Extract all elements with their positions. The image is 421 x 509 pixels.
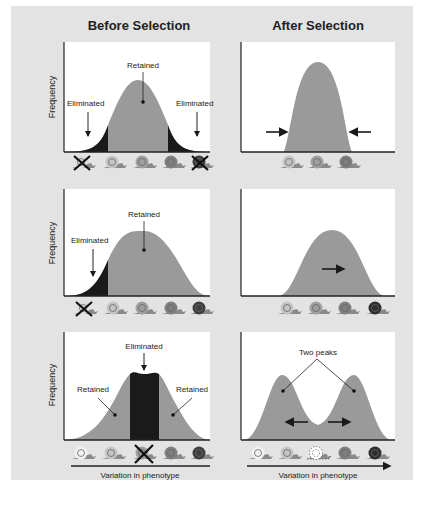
row2-before-snails xyxy=(74,302,214,317)
y-axis-label-row1: Frequency xyxy=(47,75,57,118)
label-eliminated-left: Eliminated xyxy=(67,99,104,108)
label-retained: Retained xyxy=(127,61,159,70)
label-eliminated-left: Eliminated xyxy=(71,236,108,245)
row1-after-snails xyxy=(280,156,361,169)
row-disruptive-after: Two peaks xyxy=(241,332,395,440)
label-eliminated: Eliminated xyxy=(125,342,162,351)
label-two-peaks: Two peaks xyxy=(299,348,337,357)
y-axis-label-row2: Frequency xyxy=(47,221,57,264)
row-stabilizing-after xyxy=(241,42,395,152)
x-axis-label-right: Variation in phenotype xyxy=(278,471,358,480)
row2-after-snails xyxy=(278,302,390,315)
label-retained-right: Retained xyxy=(176,385,208,394)
y-axis-label-row3: Frequency xyxy=(47,363,57,406)
row3-before-snails xyxy=(72,445,214,463)
selection-diagram: Retained Eliminated Eliminated Ret xyxy=(0,0,421,509)
row-stabilizing-before: Retained Eliminated Eliminated xyxy=(64,42,213,152)
label-retained-left: Retained xyxy=(77,385,109,394)
row-directional-after xyxy=(241,189,395,296)
row-disruptive-before: Eliminated Retained Retained xyxy=(64,332,210,440)
label-retained: Retained xyxy=(128,210,160,219)
row1-before-snails xyxy=(72,156,214,171)
x-axis-label-left: Variation in phenotype xyxy=(100,471,180,480)
row-directional-before: Retained Eliminated xyxy=(64,189,210,296)
row3-after-snails xyxy=(249,447,390,460)
label-eliminated-right: Eliminated xyxy=(176,99,213,108)
